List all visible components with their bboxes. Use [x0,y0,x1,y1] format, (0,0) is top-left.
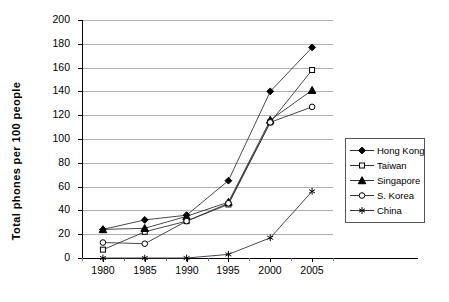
legend-marker-filled-diamond-icon [350,145,374,156]
legend-item[interactable]: S. Korea [350,188,420,203]
x-axis-tick [270,258,271,262]
x-axis-tick [228,258,229,262]
y-axis-tick-label: 60 [30,180,70,192]
data-series [100,104,315,246]
y-axis-tick-label: 160 [30,61,70,73]
series-line [103,191,312,258]
y-axis-tick-label: 80 [30,156,70,168]
series-line [103,90,312,229]
data-point-marker [226,200,232,206]
plot-area [82,20,333,258]
x-axis-minor-tick [82,258,83,261]
data-point-marker [308,86,316,93]
data-point-marker [100,240,106,246]
data-point-marker [267,120,273,126]
legend-item[interactable]: China [350,203,420,218]
series-line [103,47,312,229]
data-point-marker [309,104,315,110]
series-layer [82,20,333,258]
data-series [100,188,315,261]
x-axis-tick-label: 1990 [164,264,210,276]
data-point-marker [142,241,148,247]
data-point-marker [100,247,105,252]
x-axis-tick-label: 1980 [80,264,126,276]
data-series [100,44,316,233]
legend-item-label: China [374,205,402,216]
x-axis-tick-label: 1995 [205,264,251,276]
series-line [103,107,312,244]
legend-marker-filled-triangle-icon [350,175,374,186]
legend-marker-asterisk-icon [350,205,374,216]
x-axis-minor-tick [124,258,125,261]
legend-item-label: Hong Kong [374,145,425,156]
legend-item[interactable]: Singapore [350,173,420,188]
x-axis-minor-tick [208,258,209,261]
legend-item-label: Singapore [374,175,420,186]
chart-figure: Total phones per 100 people 020406080100… [0,0,449,302]
y-axis-tick-label: 140 [30,84,70,96]
legend-marker-open-square-icon [350,160,374,171]
x-axis-minor-tick [166,258,167,261]
data-point-marker [184,218,190,224]
data-point-marker [310,67,315,72]
y-axis-tick-label: 20 [30,227,70,239]
y-axis-title: Total phones per 100 people [10,61,22,261]
legend-item-label: Taiwan [374,160,407,171]
data-series [99,86,316,232]
x-axis-tick-label: 1985 [122,264,168,276]
x-axis-minor-tick [333,258,334,261]
x-axis-minor-tick [291,258,292,261]
chart-legend: Hong Kong Taiwan Singapore S. Korea Chin… [345,138,425,223]
x-axis-tick-label: 2000 [247,264,293,276]
legend-item[interactable]: Taiwan [350,158,420,173]
y-axis-tick-label: 120 [30,108,70,120]
x-axis-tick-label: 2005 [289,264,335,276]
x-axis-minor-tick [249,258,250,261]
y-axis-tick-label: 180 [30,37,70,49]
legend-item[interactable]: Hong Kong [350,143,420,158]
y-axis-tick-label: 40 [30,203,70,215]
legend-item-label: S. Korea [374,190,414,201]
x-axis-tick [312,258,313,262]
y-axis-tick-label: 100 [30,132,70,144]
legend-marker-open-circle-icon [350,190,374,201]
data-point-marker [141,217,148,224]
y-axis-tick-label: 0 [30,251,70,263]
y-axis-tick-label: 200 [30,13,70,25]
